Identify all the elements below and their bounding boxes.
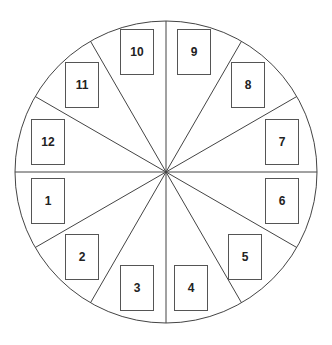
slot-box-12: 12 (31, 119, 65, 165)
slot-box-2: 2 (65, 234, 99, 280)
slot-box-11: 11 (65, 62, 99, 108)
slot-label: 11 (76, 78, 89, 92)
slot-box-3: 3 (120, 265, 154, 311)
slot-label: 7 (279, 135, 286, 149)
slot-box-10: 10 (120, 29, 154, 75)
wheel-diagram (0, 0, 332, 345)
slot-box-7: 7 (265, 119, 299, 165)
slot-label: 4 (188, 281, 195, 295)
slot-label: 1 (45, 194, 52, 208)
slot-box-5: 5 (228, 234, 262, 280)
slot-box-1: 1 (31, 178, 65, 224)
slot-label: 5 (242, 250, 249, 264)
slot-box-6: 6 (265, 178, 299, 224)
slot-box-4: 4 (174, 265, 208, 311)
slot-box-9: 9 (177, 29, 211, 75)
slot-box-8: 8 (231, 62, 265, 108)
slot-label: 2 (79, 250, 86, 264)
slot-label: 12 (41, 135, 54, 149)
slot-label: 10 (130, 45, 143, 59)
slot-label: 6 (279, 194, 286, 208)
slot-label: 8 (245, 78, 252, 92)
slot-label: 9 (191, 45, 198, 59)
slot-label: 3 (134, 281, 141, 295)
